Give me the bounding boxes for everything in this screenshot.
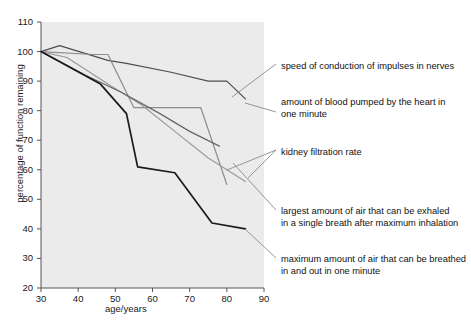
y-tick-label: 100 (7, 47, 33, 57)
y-tick-label: 40 (7, 224, 33, 234)
callout-line-4 (248, 150, 276, 178)
x-tick-label: 90 (251, 294, 277, 304)
callout-line-2 (245, 103, 276, 112)
y-tick-label: 110 (7, 17, 33, 27)
annotation-blood-pumped: amount of blood pumped by the heart in o… (281, 97, 445, 120)
x-tick-label: 70 (177, 294, 203, 304)
series-line-5 (41, 52, 245, 229)
x-tick-label: 30 (28, 294, 54, 304)
chart-figure: 203040506070809010011030405060708090 per… (0, 0, 471, 325)
y-axis-label: percentage of function remaining (14, 59, 25, 209)
annotation-air-breathed: maximum amount of air that can be breath… (281, 254, 466, 277)
series-line-3 (41, 52, 245, 182)
x-axis-label: age/years (105, 303, 147, 314)
callout-line-5 (233, 163, 276, 210)
x-tick-label: 40 (65, 294, 91, 304)
y-tick-label: 20 (7, 283, 33, 293)
y-tick-label: 30 (7, 253, 33, 263)
callout-line-6 (245, 229, 276, 258)
series-line-2 (41, 52, 227, 185)
callout-line-1 (232, 64, 276, 97)
annotation-kidney-filtration: kidney filtration rate (281, 147, 362, 159)
callout-line-3 (227, 150, 276, 170)
annotation-nerve-conduction: speed of conduction of impulses in nerve… (281, 61, 454, 73)
annotation-air-exhaled: largest amount of air that can be exhale… (281, 206, 458, 229)
x-tick-label: 80 (214, 294, 240, 304)
